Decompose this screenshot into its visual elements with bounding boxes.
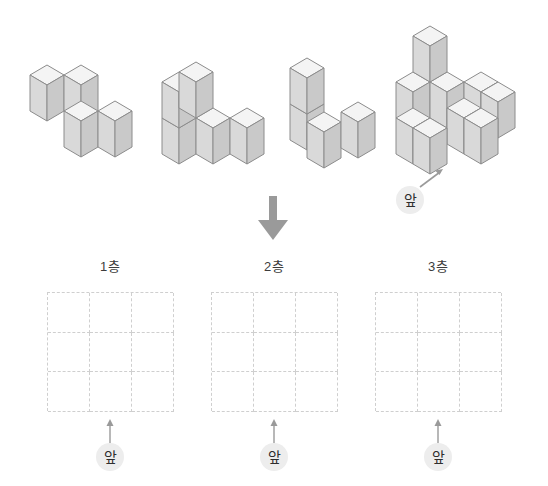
grid-2-front-label: 앞 — [260, 443, 288, 471]
grid-cell[interactable] — [132, 293, 174, 333]
grid-cell[interactable] — [460, 293, 502, 333]
grid-cell[interactable] — [296, 333, 338, 373]
solid-3 — [290, 58, 375, 168]
grid-cell[interactable] — [254, 293, 296, 333]
grid-cell[interactable] — [90, 333, 132, 373]
grid-floor-3-cells[interactable] — [375, 292, 501, 411]
grid-cell[interactable] — [254, 372, 296, 412]
grid-cell[interactable] — [296, 293, 338, 333]
solid-4 — [396, 26, 515, 174]
grid-3-front-label: 앞 — [424, 443, 452, 471]
grid-cell[interactable] — [132, 372, 174, 412]
grid-cell[interactable] — [376, 293, 418, 333]
solids-illustration: .ctop { fill:#f4f4f4; stroke:#8c8c8c; st… — [0, 0, 548, 260]
floor-1-label: 1층 — [27, 258, 193, 276]
solid-front-label: 앞 — [396, 186, 424, 214]
grid-cell[interactable] — [48, 333, 90, 373]
grid-cell[interactable] — [376, 333, 418, 373]
grid-cell[interactable] — [132, 333, 174, 373]
down-arrow-icon — [258, 196, 288, 240]
grid-cell[interactable] — [212, 372, 254, 412]
up-arrow-icon — [432, 419, 444, 443]
grid-cell[interactable] — [212, 293, 254, 333]
floor-2-label: 2층 — [191, 258, 357, 276]
worksheet-canvas: .ctop { fill:#f4f4f4; stroke:#8c8c8c; st… — [0, 0, 548, 486]
floor-grids: 1층 앞 2층 — [0, 258, 548, 486]
grid-floor-2-cells[interactable] — [211, 292, 337, 411]
grid-cell[interactable] — [296, 372, 338, 412]
grid-cell[interactable] — [90, 372, 132, 412]
grid-cell[interactable] — [90, 293, 132, 333]
grid-cell[interactable] — [418, 333, 460, 373]
grid-cell[interactable] — [48, 372, 90, 412]
grid-cell[interactable] — [376, 372, 418, 412]
solid-front-marker: 앞 — [396, 168, 460, 214]
grid-floor-1: 1층 앞 — [27, 258, 193, 475]
solid-2 — [162, 62, 264, 164]
grid-cell[interactable] — [212, 333, 254, 373]
grid-1-front-label: 앞 — [96, 443, 124, 471]
grid-floor-2: 2층 앞 — [191, 258, 357, 475]
grid-cell[interactable] — [418, 372, 460, 412]
grid-cell[interactable] — [418, 293, 460, 333]
grid-floor-1-cells[interactable] — [47, 292, 173, 411]
grid-floor-3: 3층 앞 — [355, 258, 521, 475]
grid-2-front-marker: 앞 — [191, 413, 357, 475]
solid-1 — [30, 65, 132, 157]
grid-cell[interactable] — [460, 333, 502, 373]
floor-3-label: 3층 — [355, 258, 521, 276]
grid-cell[interactable] — [48, 293, 90, 333]
up-arrow-icon — [104, 419, 116, 443]
grid-cell[interactable] — [460, 372, 502, 412]
grid-3-front-marker: 앞 — [355, 413, 521, 475]
grid-cell[interactable] — [254, 333, 296, 373]
grid-1-front-marker: 앞 — [27, 413, 193, 475]
up-arrow-icon — [268, 419, 280, 443]
